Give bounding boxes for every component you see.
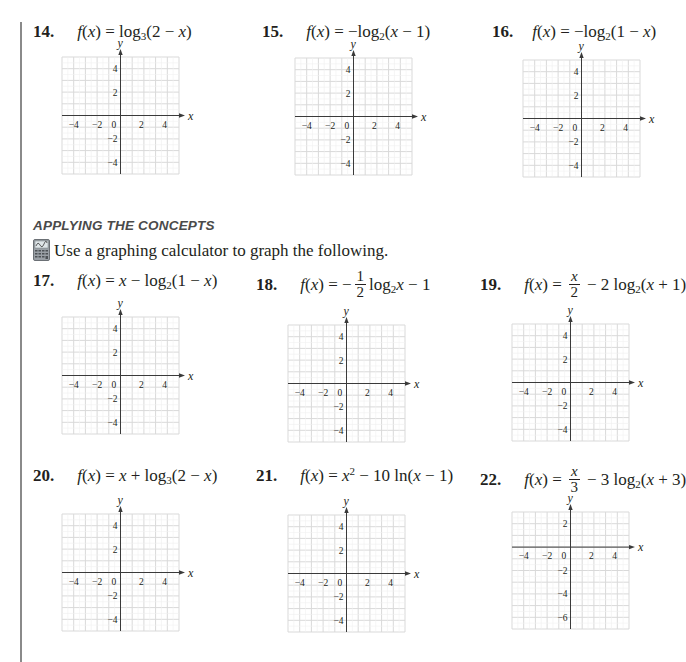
svg-text:−2: −2 <box>340 135 350 145</box>
formula: f(x) = log3(2 − x) <box>77 22 191 41</box>
problem-number: 16. <box>492 22 528 42</box>
svg-text:−4: −4 <box>519 551 529 561</box>
x-tick-labels: −4−2024 <box>519 387 618 397</box>
y-axis-label: y <box>117 36 124 50</box>
instruction-text: Use a graphing calculator to graph the f… <box>54 241 388 260</box>
svg-text:4: 4 <box>339 332 344 342</box>
x-axis-label: x <box>187 109 194 123</box>
y-axis-label: y <box>343 304 350 318</box>
problem-header: 19. f(x) = x2 − 2 log2(x + 1) <box>480 271 686 302</box>
svg-text:−4: −4 <box>107 158 117 168</box>
svg-text:4: 4 <box>162 380 167 390</box>
x-axis-label: x <box>420 110 427 124</box>
x-axis-label: x <box>413 567 420 581</box>
problem-number: 15. <box>262 22 302 42</box>
coordinate-grid[interactable]: xy−4−202442−2−4 <box>288 313 419 442</box>
svg-text:−2: −2 <box>325 121 335 131</box>
svg-text:4: 4 <box>388 578 393 588</box>
svg-text:0: 0 <box>338 388 343 398</box>
y-axis-label: y <box>117 296 124 310</box>
svg-text:4: 4 <box>388 388 393 398</box>
svg-text:4: 4 <box>612 551 617 561</box>
x-axis-arrow-icon <box>629 545 635 549</box>
svg-text:−4: −4 <box>69 380 79 390</box>
svg-text:2: 2 <box>365 578 370 588</box>
svg-text:−2: −2 <box>107 591 117 601</box>
coordinate-grid[interactable]: xy−4−20242−2−4−6 <box>512 500 643 629</box>
formula: f(x) = x3 − 3 log2(x + 3) <box>524 470 686 489</box>
formula: f(x) = x + log3(2 − x) <box>77 466 217 485</box>
svg-text:0: 0 <box>573 123 578 133</box>
svg-text:4: 4 <box>623 123 628 133</box>
formula: f(x) = −12log2x − 1 <box>300 275 430 294</box>
x-axis-arrow-icon <box>412 114 418 118</box>
svg-text:0: 0 <box>112 380 117 390</box>
svg-text:4: 4 <box>563 331 568 341</box>
svg-text:2: 2 <box>574 91 579 101</box>
problem-header: 14. f(x) = log3(2 − x) <box>33 22 192 42</box>
margin-bar <box>20 22 22 662</box>
x-tick-labels: −4−2024 <box>295 578 394 588</box>
axes <box>295 50 418 175</box>
problem-header: 20. f(x) = x + log3(2 − x) <box>33 466 217 486</box>
y-axis-label: y <box>350 37 357 51</box>
axes <box>288 317 411 442</box>
svg-text:2: 2 <box>600 123 605 133</box>
axes <box>288 507 411 632</box>
x-tick-labels: −4−2024 <box>69 120 168 130</box>
coordinate-grid[interactable]: xy−4−202442−2−4 <box>295 46 426 175</box>
coordinate-grid[interactable]: xy−4−202442−2−4 <box>288 503 419 632</box>
x-axis-arrow-icon <box>179 113 185 117</box>
svg-text:−4: −4 <box>568 161 578 171</box>
coordinate-grid[interactable]: xy−4−202442−2−4 <box>62 502 193 631</box>
svg-text:0: 0 <box>562 551 567 561</box>
x-axis-label: x <box>187 369 194 383</box>
coordinate-grid[interactable]: xy−4−202442−2−4 <box>523 48 654 177</box>
coordinate-grid[interactable]: xy−4−202442−2−4 <box>512 312 643 441</box>
problem-number: 21. <box>256 466 296 486</box>
svg-text:2: 2 <box>139 120 144 130</box>
svg-text:4: 4 <box>162 120 167 130</box>
axes <box>523 52 646 177</box>
svg-text:0: 0 <box>338 578 343 588</box>
section-title: APPLYING THE CONCEPTS <box>33 218 215 233</box>
svg-text:0: 0 <box>112 120 117 130</box>
svg-text:−2: −2 <box>568 137 578 147</box>
svg-text:2: 2 <box>139 380 144 390</box>
svg-text:−4: −4 <box>107 418 117 428</box>
svg-text:4: 4 <box>612 387 617 397</box>
problem-header: 15. f(x) = −log2(x − 1) <box>262 22 430 42</box>
x-tick-labels: −4−2024 <box>530 123 629 133</box>
problem-number: 17. <box>33 271 73 291</box>
problem-header: 18. f(x) = −12log2x − 1 <box>256 271 430 302</box>
svg-text:4: 4 <box>113 64 118 74</box>
x-axis-label: x <box>413 377 420 391</box>
svg-text:−2: −2 <box>92 577 102 587</box>
coordinate-grid[interactable]: xy−4−202442−2−4 <box>62 305 193 434</box>
formula: f(x) = x2 − 10 ln(x − 1) <box>300 466 453 485</box>
y-axis-label: y <box>567 491 574 505</box>
x-tick-labels: −4−2024 <box>69 380 168 390</box>
problem-header: 22. f(x) = x3 − 3 log2(x + 3) <box>480 466 686 497</box>
coordinate-grid[interactable]: xy−4−202442−2−4 <box>62 45 193 174</box>
svg-text:2: 2 <box>563 355 568 365</box>
x-axis-arrow-icon <box>179 373 185 377</box>
svg-text:−2: −2 <box>557 401 567 411</box>
svg-text:−4: −4 <box>519 387 529 397</box>
svg-text:−2: −2 <box>542 551 552 561</box>
svg-text:0: 0 <box>345 121 350 131</box>
fraction: 12 <box>355 269 367 300</box>
y-axis-label: y <box>567 303 574 317</box>
formula: f(x) = −log2(x − 1) <box>306 22 430 41</box>
svg-text:4: 4 <box>113 324 118 334</box>
problem-number: 19. <box>480 275 520 295</box>
svg-text:2: 2 <box>113 545 118 555</box>
svg-text:2: 2 <box>113 88 118 98</box>
axes <box>62 309 185 434</box>
x-axis-arrow-icon <box>629 380 635 384</box>
x-axis-label: x <box>648 112 655 126</box>
x-axis-label: x <box>187 566 194 580</box>
svg-text:−4: −4 <box>333 616 343 626</box>
svg-text:−4: −4 <box>69 577 79 587</box>
x-axis-arrow-icon <box>640 116 646 120</box>
